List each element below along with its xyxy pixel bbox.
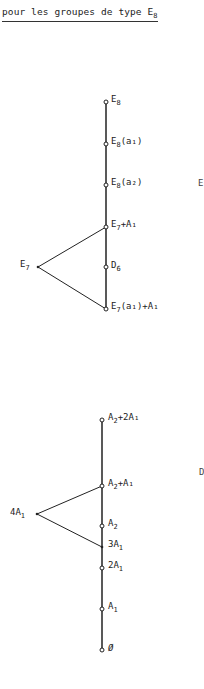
label-sub: 1 [21,512,25,520]
label-text: 3A [108,539,119,549]
label-E8a2: E8(a₂) [111,178,142,190]
label-sub: 2 [113,523,117,531]
label-A22A1: A2+2A₁ [108,413,139,425]
label-rest: (a₁)+A₁ [121,301,159,311]
label-E8a1: E8(a₁) [111,137,142,149]
label-A2: A2 [108,519,118,531]
node-E7A1 [104,225,108,229]
node-2A1 [100,566,104,570]
node-empty [100,648,104,652]
label-sub: 8 [116,99,120,107]
label-sub: 1 [119,544,123,552]
edge-E7-to-E7A1 [38,227,106,267]
edge-E7-to-E7a1A1 [38,267,106,309]
label-rest: +A₁ [118,478,134,488]
label-text: 4A [10,507,21,517]
label-E7: E7 [20,260,30,272]
node-A2 [100,524,104,528]
node-3A1 [101,546,104,549]
label-rest: (a₂) [121,177,143,187]
node-E8a1 [104,142,108,146]
label-rest: +2A₁ [118,412,140,422]
label-3A1: 3A1 [108,540,123,552]
node-A2A1 [100,484,104,488]
edge-4A1-to-A2A1 [37,486,102,514]
node-E8a2 [104,183,108,187]
label-sub: 1 [113,606,117,614]
label-sub: 6 [116,265,120,273]
cropped-fragment-upper: E [198,178,203,188]
edge-4A1-to-3A1 [37,514,102,547]
node-E7 [37,266,40,269]
label-sub: 1 [119,565,123,573]
label-E7a1A1: E7(a₁)+A₁ [111,302,159,314]
label-A2A1: A2+A₁ [108,479,134,491]
label-A1: A1 [108,602,118,614]
label-4A1: 4A1 [10,508,25,520]
node-D6 [104,265,108,269]
node-4A1 [36,513,39,516]
label-D6: D6 [111,261,121,273]
cropped-fragment-lower: D [199,467,204,477]
label-text: 2A [108,560,119,570]
label-E8: E8 [111,95,121,107]
label-sub: 7 [25,264,29,272]
label-rest: (a₁) [121,136,143,146]
label-text: Ø [108,643,113,653]
node-E8 [104,100,108,104]
node-A1 [100,607,104,611]
label-E7A1: E7+A₁ [111,220,137,232]
label-empty: Ø [108,644,113,653]
node-E7a1A1 [104,307,108,311]
node-A22A1 [100,418,104,422]
hasse-diagram [0,0,204,689]
label-rest: +A₁ [121,219,137,229]
label-2A1: 2A1 [108,561,123,573]
